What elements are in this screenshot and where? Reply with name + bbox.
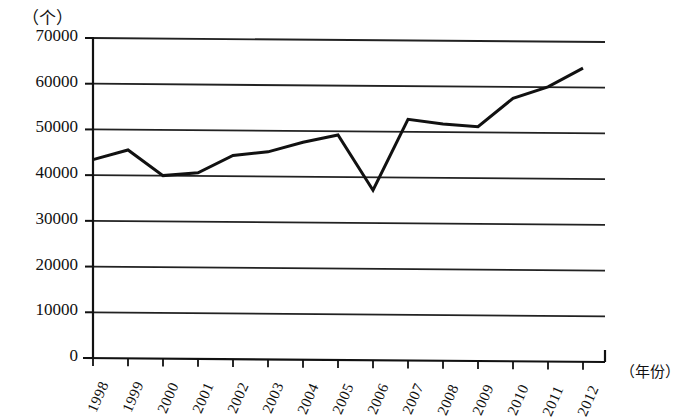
y-tick-label: 0 — [0, 346, 78, 366]
gridline — [92, 267, 605, 271]
gridlines-group — [83, 38, 605, 362]
y-tick-label: 60000 — [0, 72, 78, 92]
x-axis-line — [83, 358, 605, 362]
y-tick-label: 20000 — [0, 255, 78, 275]
gridline — [92, 221, 605, 225]
gridline — [92, 84, 605, 88]
y-tick-label: 70000 — [0, 26, 78, 46]
y-tick-label: 50000 — [0, 117, 78, 137]
y-tick-label: 30000 — [0, 209, 78, 229]
y-tick-label: 10000 — [0, 300, 78, 320]
y-tick-label: 40000 — [0, 163, 78, 183]
gridline — [92, 38, 605, 42]
gridline — [92, 129, 605, 133]
gridline — [92, 312, 605, 316]
